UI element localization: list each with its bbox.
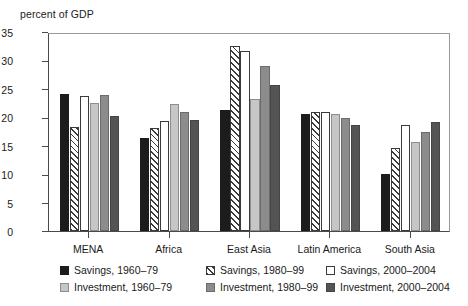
open-white-swatch (326, 266, 335, 275)
legend-item-label: Investment, 1980–99 (220, 281, 318, 293)
y-axis-tick-label: 0 (0, 227, 13, 238)
x-axis-tick-mark (88, 232, 89, 238)
legend-item-label: Savings, 1980–99 (220, 264, 304, 276)
x-axis-tick-label: South Asia (385, 243, 435, 255)
legend-item: Savings, 1960–79 (60, 264, 158, 276)
legend-item-label: Investment, 2000–2004 (340, 281, 450, 293)
x-axis-tick-label: Africa (155, 243, 182, 255)
legend-item-label: Savings, 1960–79 (74, 264, 158, 276)
bar (100, 95, 109, 231)
bar (260, 66, 269, 231)
x-axis-tick-label: Latin America (298, 243, 362, 255)
y-axis-tick-label: 25 (0, 85, 13, 96)
bar (190, 120, 199, 231)
x-axis-tick-mark (169, 232, 170, 238)
bar (411, 142, 420, 231)
legend-item-label: Investment, 1960–79 (74, 281, 172, 293)
bar (180, 112, 189, 231)
bar (421, 132, 430, 231)
bar (321, 112, 330, 231)
bar (250, 99, 259, 231)
x-axis-tick-mark (410, 232, 411, 238)
light-gray-swatch (60, 283, 69, 292)
bar (220, 110, 229, 231)
y-axis-tick-label: 30 (0, 56, 13, 67)
y-axis-tick-label: 5 (0, 199, 13, 210)
y-axis-tick-label: 15 (0, 142, 13, 153)
bar (170, 104, 179, 231)
legend-item: Investment, 1960–79 (60, 281, 172, 293)
legend-item-label: Savings, 2000–2004 (340, 264, 436, 276)
bar (230, 46, 239, 231)
bar (80, 96, 89, 231)
bar (391, 148, 400, 231)
bar (240, 51, 249, 231)
bar (90, 103, 99, 231)
bar (60, 94, 69, 231)
bar (150, 128, 159, 231)
dark-gray-swatch (326, 283, 335, 292)
bar (311, 112, 320, 231)
bar (70, 127, 79, 231)
y-axis-tick-label: 10 (0, 170, 13, 181)
bar (331, 114, 340, 231)
legend-item: Savings, 2000–2004 (326, 264, 436, 276)
chart-legend: Savings, 1960–79Savings, 1980–99Savings,… (60, 264, 460, 300)
bar (110, 116, 119, 231)
y-axis-tick-label: 20 (0, 113, 13, 124)
bar (270, 85, 279, 231)
x-axis-tick-mark (249, 232, 250, 238)
y-axis-title: percent of GDP (20, 8, 94, 20)
mid-gray-swatch (206, 283, 215, 292)
bar (381, 174, 390, 231)
x-axis-tick-mark (329, 232, 330, 238)
bar (160, 121, 169, 231)
plot-area (48, 33, 450, 232)
bar (351, 125, 360, 231)
legend-item: Investment, 2000–2004 (326, 281, 450, 293)
bar (140, 138, 149, 231)
bar-chart: percent of GDP 05101520253035 MENAAfrica… (0, 0, 468, 306)
bar (341, 118, 350, 231)
x-axis-tick-label: East Asia (227, 243, 271, 255)
x-axis-tick-label: MENA (73, 243, 103, 255)
y-axis-tick-label: 35 (0, 28, 13, 39)
bar (401, 125, 410, 231)
hatched-swatch (206, 266, 215, 275)
legend-item: Savings, 1980–99 (206, 264, 304, 276)
legend-item: Investment, 1980–99 (206, 281, 318, 293)
bar (301, 114, 310, 231)
bar (431, 122, 440, 231)
solid-black-swatch (60, 266, 69, 275)
